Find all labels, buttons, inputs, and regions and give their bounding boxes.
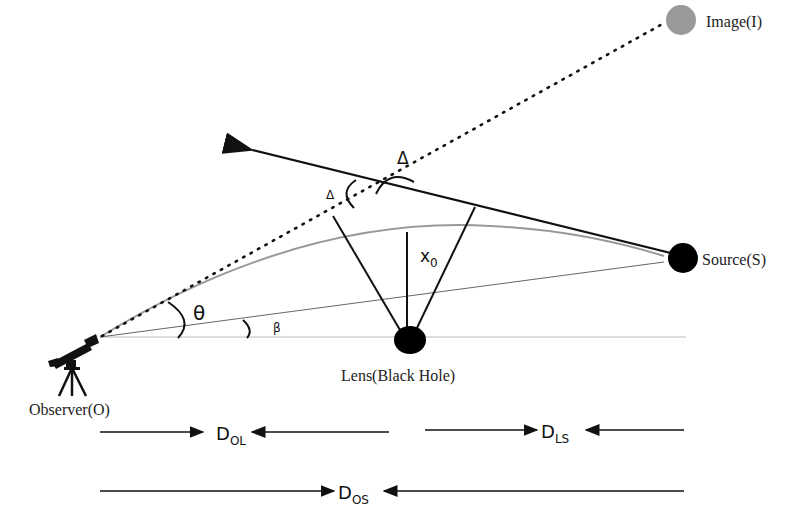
source-label: Source(S): [702, 251, 766, 269]
theta-label: θ: [193, 301, 205, 325]
svg-text:DOS: DOS: [338, 482, 369, 507]
svg-text:DLS: DLS: [541, 421, 569, 446]
svg-text:DOL: DOL: [216, 423, 246, 448]
delta-large-label: Δ: [397, 148, 409, 168]
distance-ls: DLS: [425, 421, 684, 446]
image-sightline: [102, 22, 666, 336]
beta-arc: [243, 320, 250, 338]
distance-os: DOS: [100, 482, 684, 507]
image-label: Image(I): [706, 13, 762, 31]
distance-ol: DOL: [100, 423, 389, 448]
observer-label: Observer(O): [29, 401, 110, 419]
image-body: [666, 5, 696, 35]
lens-black-hole: [394, 326, 426, 354]
theta-arc: [168, 302, 185, 338]
lensing-diagram: Image(I) Source(S) Lens(Black Hole) Obse…: [0, 0, 807, 531]
impact-parameter-label: x0: [420, 246, 438, 270]
deflected-ray: [252, 150, 683, 256]
beta-label: β: [273, 321, 281, 335]
delta-small-label: Δ: [326, 188, 335, 202]
lens-label: Lens(Black Hole): [341, 367, 455, 385]
source-body: [668, 243, 698, 273]
telescope-icon: [48, 334, 99, 396]
